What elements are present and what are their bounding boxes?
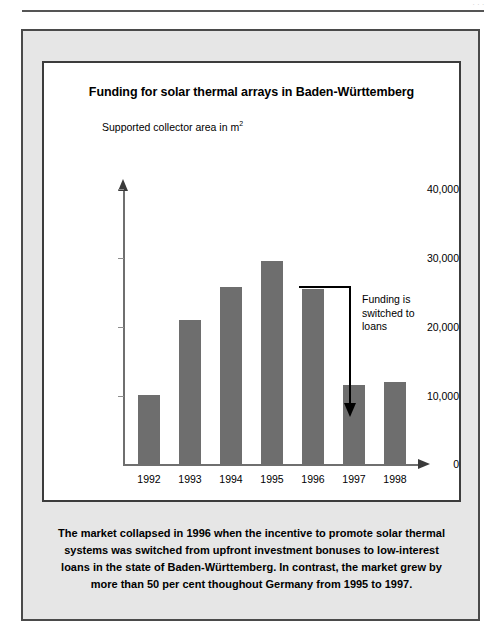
annotation-arrow-vertical bbox=[349, 286, 351, 406]
bar-1994[interactable] bbox=[220, 287, 242, 464]
y-gridline-20000 bbox=[118, 327, 124, 328]
x-axis-arrow-icon bbox=[418, 459, 430, 469]
bar-1998[interactable] bbox=[384, 382, 406, 465]
y-gridline-30000 bbox=[118, 258, 124, 259]
figure-caption: The market collapsed in 1996 when the in… bbox=[49, 525, 454, 593]
annotation-label: Funding is switched to loans bbox=[362, 293, 415, 334]
annotation-arrow-horizontal bbox=[299, 286, 351, 288]
chart-container: Funding for solar thermal arrays in Bade… bbox=[42, 61, 461, 502]
page-top-rule bbox=[22, 10, 484, 12]
figure-panel: Funding for solar thermal arrays in Bade… bbox=[21, 29, 480, 621]
y-tick-label-10000: 10,000 bbox=[403, 390, 459, 402]
y-gridline-10000 bbox=[118, 396, 124, 397]
plot-area: 40,000 30,000 20,000 10,000 0 1992 1993 bbox=[44, 63, 459, 500]
bar-1992[interactable] bbox=[138, 395, 160, 464]
page-header-ghost-text: ... bbox=[473, 0, 487, 7]
x-tick-label-1998: 1998 bbox=[369, 473, 421, 485]
y-tick-label-30000: 30,000 bbox=[403, 252, 459, 264]
bar-1995[interactable] bbox=[261, 261, 283, 465]
bar-1996[interactable] bbox=[302, 289, 324, 464]
y-tick-label-40000: 40,000 bbox=[403, 183, 459, 195]
y-gridline-40000 bbox=[118, 189, 124, 190]
bar-1993[interactable] bbox=[179, 320, 201, 464]
annotation-arrowhead-icon bbox=[344, 403, 356, 417]
x-axis-line bbox=[123, 464, 420, 466]
bar-1997[interactable] bbox=[343, 385, 365, 464]
